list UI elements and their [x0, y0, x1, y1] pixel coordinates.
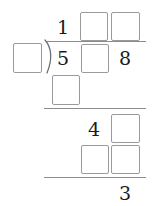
difference-digit-1: 4: [83, 120, 105, 139]
partial-product-box-1[interactable]: [52, 75, 80, 105]
quotient-digit-1: 1: [52, 18, 74, 37]
difference-answer-box[interactable]: [111, 114, 140, 143]
long-division-worksheet: 1 5 8 4 3: [0, 0, 152, 206]
quotient-answer-box-1[interactable]: [80, 12, 108, 41]
subtraction-rule-2: [44, 177, 146, 178]
dividend-digit-1: 5: [52, 49, 74, 68]
quotient-answer-box-2[interactable]: [111, 12, 140, 41]
remainder-digit: 3: [114, 184, 136, 203]
divisor-answer-box[interactable]: [13, 43, 42, 73]
dividend-digit-3: 8: [114, 49, 136, 68]
dividend-answer-box[interactable]: [81, 44, 109, 73]
subtraction-rule-1: [44, 108, 146, 109]
partial-product-box-3[interactable]: [111, 145, 140, 174]
division-vinculum: [47, 41, 146, 42]
partial-product-box-2[interactable]: [81, 145, 109, 174]
